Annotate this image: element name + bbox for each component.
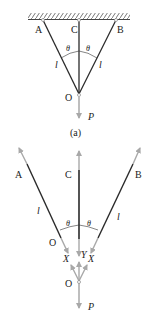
two-bar-truss-diagram: A C B O θ θ l l P (a) A C B l l: [0, 0, 151, 319]
node-o: [78, 94, 81, 97]
hinge-c: [78, 19, 81, 22]
figure-b: A C B l l θ θ O X Y X O P: [15, 148, 142, 312]
label-x-left: X: [62, 253, 70, 264]
label-p: P: [87, 111, 94, 122]
label-o-node: O: [65, 278, 72, 289]
label-l-left: l: [37, 205, 40, 216]
label-theta-right: θ: [86, 44, 90, 53]
hinge-a: [42, 19, 45, 22]
bar-a: [27, 164, 61, 238]
bar-b: [98, 164, 133, 238]
label-y-center: Y: [81, 249, 88, 260]
label-c: C: [65, 169, 72, 180]
label-l-left: l: [55, 59, 58, 70]
force-arrow-b-top: [133, 148, 140, 164]
label-a: A: [35, 24, 43, 35]
label-o-bar: O: [49, 237, 56, 248]
label-p: P: [87, 301, 94, 312]
node-o: [78, 281, 81, 284]
hinge-b: [115, 19, 118, 22]
label-theta-right: θ: [87, 219, 91, 228]
label-b: B: [117, 24, 124, 35]
ceiling-hatch: [28, 13, 130, 19]
node-force-right: [79, 265, 87, 281]
label-a: A: [15, 169, 23, 180]
label-l-right: l: [117, 211, 120, 222]
force-arrow-a-top: [19, 148, 27, 164]
figure-a: A C B O θ θ l l P (a): [28, 13, 130, 139]
label-b: B: [135, 169, 142, 180]
label-l-right: l: [99, 59, 102, 70]
angle-arc-left: [61, 51, 79, 58]
bar-ob: [79, 20, 116, 94]
label-theta-left: θ: [66, 44, 70, 53]
caption-a: (a): [70, 127, 81, 139]
force-arrow-b-bottom: [91, 238, 98, 253]
label-c: C: [71, 24, 78, 35]
label-theta-left: θ: [66, 219, 70, 228]
label-x-right: X: [87, 253, 95, 264]
label-o: O: [65, 92, 72, 103]
force-arrow-a-bottom: [61, 238, 68, 253]
